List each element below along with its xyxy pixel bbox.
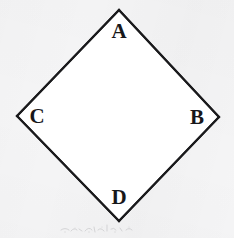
figure-canvas: A B D C — [0, 0, 234, 238]
vertex-label-a: A — [111, 21, 126, 42]
vertex-label-d: D — [111, 187, 126, 208]
vertex-label-b: B — [190, 107, 204, 128]
vertex-label-c: C — [29, 106, 44, 127]
